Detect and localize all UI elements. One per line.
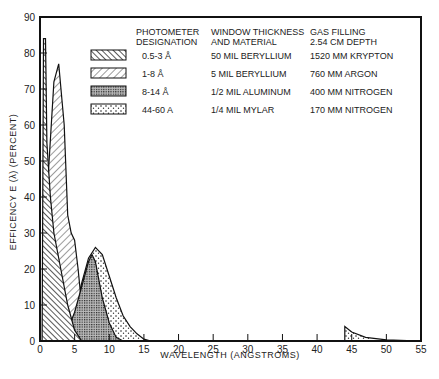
efficiency-chart: 0510152025303540455055010203040506070809…	[0, 0, 439, 379]
y-tick-label: 60	[24, 120, 36, 131]
x-tick-label: 5	[72, 344, 78, 355]
y-tick-label: 50	[24, 156, 36, 167]
series-area-3	[345, 327, 421, 341]
legend-header-window-1: WINDOW THICKNESS	[211, 27, 304, 37]
legend-window-0: 50 MIL BERYLLIUM	[211, 51, 292, 61]
y-tick-label: 70	[24, 84, 36, 95]
legend-header-designation-2: DESIGNATION	[136, 37, 197, 47]
legend-gas-3: 170 MM NITROGEN	[310, 105, 393, 115]
y-tick-label: 10	[24, 300, 36, 311]
legend-header-designation-1: PHOTOMETER	[136, 27, 200, 37]
legend-swatch-3	[91, 104, 126, 114]
legend-swatch-0	[91, 50, 126, 60]
y-axis-label: EFFICENCY E (λ) (PERCENT)	[8, 114, 18, 250]
legend-header-window-2: AND MATERIAL	[211, 37, 277, 47]
y-tick-label: 90	[24, 12, 36, 23]
x-axis-label: WAVELENGTH (ANGSTROMS)	[160, 350, 300, 360]
x-tick-label: 0	[37, 344, 43, 355]
x-tick-label: 10	[104, 344, 116, 355]
legend-gas-1: 760 MM ARGON	[310, 69, 378, 79]
x-tick-label: 40	[312, 344, 324, 355]
legend-window-2: 1/2 MIL ALUMINUM	[211, 87, 291, 97]
legend-gas-2: 400 MM NITROGEN	[310, 87, 393, 97]
legend-swatch-1	[91, 68, 126, 78]
plot-areas	[42, 39, 421, 341]
legend-window-3: 1/4 MIL MYLAR	[211, 105, 275, 115]
legend-designation-2: 8-14 Å	[142, 87, 169, 97]
legend-gas-0: 1520 MM KRYPTON	[310, 51, 393, 61]
legend-header-gas-2: 2.54 CM DEPTH	[310, 37, 377, 47]
legend: PHOTOMETER DESIGNATION WINDOW THICKNESS …	[91, 27, 393, 115]
x-tick-label: 55	[415, 344, 427, 355]
x-tick-label: 15	[138, 344, 150, 355]
legend-header-gas-1: GAS FILLING	[310, 27, 366, 37]
y-tick-label: 40	[24, 192, 36, 203]
y-tick-label: 0	[29, 336, 35, 347]
legend-designation-1: 1-8 Å	[142, 69, 164, 79]
legend-designation-3: 44-60 A	[142, 105, 173, 115]
legend-designation-0: 0.5-3 Å	[142, 51, 171, 61]
y-tick-label: 80	[24, 48, 36, 59]
y-tick-label: 20	[24, 264, 36, 275]
y-tick-label: 30	[24, 228, 36, 239]
x-tick-label: 45	[346, 344, 358, 355]
legend-swatch-2	[91, 86, 126, 96]
legend-window-1: 5 MIL BERYLLIUM	[211, 69, 287, 79]
x-tick-label: 50	[381, 344, 393, 355]
